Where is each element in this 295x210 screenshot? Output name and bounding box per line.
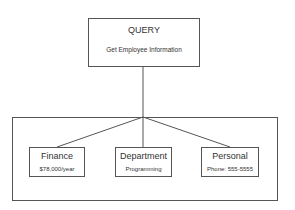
- finance-box: Finance $78,000/year: [29, 147, 85, 177]
- department-box: Department Programming: [115, 147, 172, 177]
- department-detail: Programming: [116, 166, 171, 172]
- personal-box: Personal Phone: 555-5555: [201, 147, 259, 177]
- query-subtitle: Get Employee Information: [89, 46, 199, 53]
- finance-detail: $78,000/year: [30, 166, 84, 172]
- query-box: QUERY Get Employee Information: [88, 18, 200, 67]
- personal-title: Personal: [202, 151, 258, 161]
- department-title: Department: [116, 151, 171, 161]
- personal-detail: Phone: 555-5555: [202, 166, 258, 172]
- query-title: QUERY: [89, 25, 199, 35]
- finance-title: Finance: [30, 151, 84, 161]
